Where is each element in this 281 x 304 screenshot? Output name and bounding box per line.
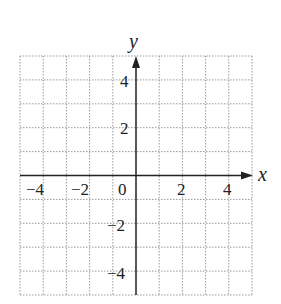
y-axis-label: y [127, 30, 138, 53]
y-axis-arrow-icon [132, 56, 140, 68]
y-tick-label: 4 [120, 72, 129, 91]
x-tick-label: 0 [118, 180, 127, 199]
x-tick-label: −2 [71, 180, 89, 199]
x-axis-arrow-icon [241, 172, 253, 180]
y-tick-label: −4 [107, 264, 126, 283]
x-tick-label: 2 [177, 180, 186, 199]
x-tick-label: −4 [26, 180, 45, 199]
y-tick-label: −2 [107, 216, 125, 235]
y-tick-label: 2 [120, 119, 129, 138]
x-axis-label: x [257, 163, 267, 185]
coordinate-plane: x y −4 −2 0 2 4 4 2 −2 −4 [0, 0, 281, 304]
x-tick-label: 4 [223, 180, 232, 199]
